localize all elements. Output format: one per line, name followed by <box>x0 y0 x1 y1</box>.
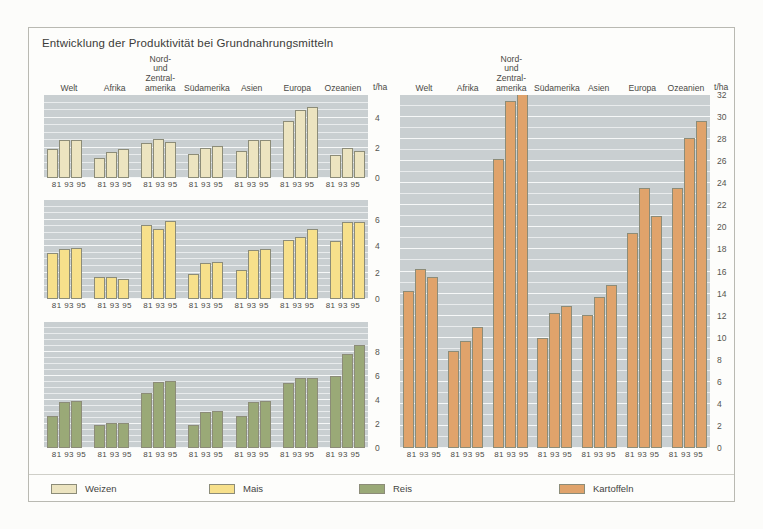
bar-group-3 <box>188 322 223 448</box>
bar <box>342 222 353 299</box>
bar <box>106 423 117 448</box>
y-tick-label: 2 <box>375 419 380 429</box>
y-tick-label: 32 <box>717 90 726 100</box>
bar <box>71 248 82 299</box>
y-tick-label: 16 <box>717 267 726 277</box>
legend-swatch-icon <box>51 484 77 494</box>
x-tick-group-5: 81 93 95 <box>275 180 319 189</box>
bar-group-5 <box>283 95 318 178</box>
bar-group-6 <box>330 322 365 448</box>
bar-group-0 <box>47 95 82 178</box>
page-title: Entwicklung der Produktivität bei Grundn… <box>42 37 333 49</box>
x-tick-group-3: 81 93 95 <box>184 180 228 189</box>
bar-group-5 <box>627 95 662 448</box>
bar <box>354 151 365 178</box>
x-tick-group-2: 81 93 95 <box>138 180 182 189</box>
x-tick-group-5: 81 93 95 <box>621 450 663 459</box>
bar <box>260 401 271 448</box>
legend-item-reis[interactable]: Reis <box>359 483 412 494</box>
y-tick-label: 0 <box>375 443 380 453</box>
x-tick-group-0: 81 93 95 <box>47 180 91 189</box>
plot-area-kartoffeln <box>400 95 710 448</box>
bar <box>594 297 605 448</box>
bar <box>94 277 105 299</box>
y-tick-label: 4 <box>375 113 380 123</box>
y-tick-label: 0 <box>375 173 380 183</box>
bar <box>330 155 341 178</box>
bar <box>59 402 70 448</box>
left-unit-label: t/ha <box>373 82 387 92</box>
bar <box>342 148 353 178</box>
bar <box>153 382 164 448</box>
bar-group-4 <box>236 95 271 178</box>
x-tick-group-1: 81 93 95 <box>93 301 137 310</box>
bar <box>165 221 176 299</box>
bar <box>505 101 516 448</box>
bar <box>342 354 353 448</box>
bar <box>651 216 662 448</box>
y-tick-label: 6 <box>717 377 722 387</box>
bar <box>188 274 199 299</box>
bar-groups <box>44 95 368 178</box>
bar <box>493 159 504 448</box>
column-header-3: Südamerika <box>534 84 576 94</box>
x-tick-group-6: 81 93 95 <box>665 450 707 459</box>
y-tick-label: 10 <box>717 333 726 343</box>
bar <box>684 138 695 448</box>
column-header-0: Welt <box>403 84 445 94</box>
bar-groups <box>44 322 368 448</box>
column-header-4: Asien <box>578 84 620 94</box>
column-header-5: Europa <box>621 84 663 94</box>
y-tick-label: 14 <box>717 289 726 299</box>
bar <box>295 110 306 178</box>
x-tick-group-6: 81 93 95 <box>321 180 365 189</box>
legend-swatch-icon <box>209 484 235 494</box>
bar <box>260 140 271 178</box>
bar <box>517 95 528 448</box>
legend-item-mais[interactable]: Mais <box>209 483 263 494</box>
x-tick-group-6: 81 93 95 <box>321 450 365 459</box>
bar <box>141 393 152 448</box>
column-header-6: Ozeanien <box>665 84 707 94</box>
bar-group-4 <box>582 95 617 448</box>
bar-group-4 <box>236 322 271 448</box>
left-column-headers: WeltAfrikaNord- und Zentral- amerikaSüda… <box>44 68 368 94</box>
bar <box>94 158 105 178</box>
legend-item-weizen[interactable]: Weizen <box>51 483 117 494</box>
y-tick-label: 18 <box>717 244 726 254</box>
bar-group-3 <box>188 200 223 299</box>
y-tick-label: 2 <box>375 143 380 153</box>
bar <box>248 250 259 299</box>
x-tick-group-4: 81 93 95 <box>230 301 274 310</box>
panel-mais <box>44 200 368 299</box>
bar <box>59 140 70 178</box>
legend-item-kartoffeln[interactable]: Kartoffeln <box>559 483 634 494</box>
x-tick-group-0: 81 93 95 <box>47 301 91 310</box>
bar <box>200 148 211 178</box>
chart-page: Entwicklung der Produktivität bei Grundn… <box>0 0 763 529</box>
bar-group-0 <box>47 322 82 448</box>
plot-area-weizen <box>44 95 368 178</box>
bar-groups <box>44 200 368 299</box>
plot-area-reis <box>44 322 368 448</box>
panel-weizen <box>44 95 368 178</box>
panel-reis <box>44 322 368 448</box>
y-tick-label: 6 <box>375 215 380 225</box>
bar <box>188 425 199 448</box>
y-tick-label: 26 <box>717 156 726 166</box>
x-tick-group-4: 81 93 95 <box>230 450 274 459</box>
bar <box>549 313 560 448</box>
x-tick-group-4: 81 93 95 <box>578 450 620 459</box>
bar <box>71 140 82 178</box>
bar <box>200 412 211 448</box>
bar <box>200 263 211 299</box>
bar <box>236 416 247 448</box>
x-tick-group-1: 81 93 95 <box>447 450 489 459</box>
x-tick-group-2: 81 93 95 <box>138 450 182 459</box>
bar <box>415 269 426 448</box>
x-tick-group-4: 81 93 95 <box>230 180 274 189</box>
panel-kartoffeln <box>400 95 710 448</box>
bar <box>165 142 176 178</box>
bar-group-0 <box>403 95 438 448</box>
x-tick-group-1: 81 93 95 <box>93 180 137 189</box>
